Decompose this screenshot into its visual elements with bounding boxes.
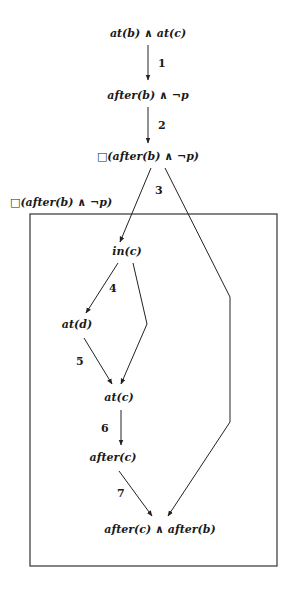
- node-after-b-and-not-p: after(b) ∧ ¬p: [107, 89, 189, 102]
- edge-label-7: 7: [117, 487, 125, 500]
- edge-label-6: 6: [101, 422, 109, 435]
- node-in-c: in(c): [112, 245, 141, 258]
- edge-label-4: 4: [109, 282, 117, 295]
- node-at-b-and-at-c: at(b) ∧ at(c): [110, 27, 186, 40]
- edge-3: [120, 168, 151, 242]
- node-at-d: at(d): [62, 318, 92, 331]
- edge-label-2: 2: [158, 119, 166, 132]
- node-always-after-b-and-not-p: □(after(b) ∧ ¬p): [97, 150, 199, 163]
- edge-label-5: 5: [76, 355, 84, 368]
- edge-5: [84, 338, 112, 384]
- edge-always-to-final: [165, 168, 230, 516]
- edge-in-c-to-at-c: [121, 263, 147, 384]
- always-region-label: □(after(b) ∧ ¬p): [10, 196, 112, 209]
- state-diagram: □(after(b) ∧ ¬p) at(b) ∧ at(c) after(b) …: [0, 0, 294, 589]
- node-after-c-and-after-b: after(c) ∧ after(b): [104, 523, 215, 536]
- always-region-box: [30, 214, 277, 566]
- node-at-c: at(c): [104, 391, 133, 404]
- edge-label-1: 1: [158, 57, 166, 70]
- edge-label-3: 3: [155, 184, 163, 197]
- node-after-c: after(c): [90, 451, 137, 464]
